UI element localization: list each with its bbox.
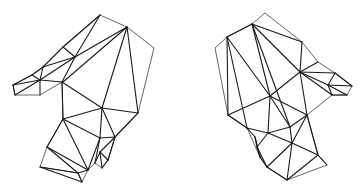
mesh-edge bbox=[300, 72, 332, 95]
mesh-edge bbox=[100, 108, 102, 138]
mesh-edge bbox=[32, 75, 40, 80]
mesh-edge bbox=[63, 119, 88, 170]
hand-meshes-figure bbox=[0, 0, 363, 188]
left-hand-outline bbox=[13, 15, 154, 182]
mesh-edge bbox=[328, 85, 352, 86]
mesh-edge bbox=[102, 108, 115, 137]
mesh-edge bbox=[252, 24, 290, 127]
mesh-edge bbox=[268, 96, 270, 133]
mesh-edge bbox=[335, 73, 352, 86]
mesh-edge bbox=[227, 37, 228, 115]
mesh-edge bbox=[268, 127, 290, 133]
mesh-edge bbox=[267, 143, 292, 167]
mesh-edge bbox=[40, 167, 82, 182]
left-hand-mesh bbox=[13, 15, 154, 182]
mesh-edge bbox=[63, 108, 102, 119]
mesh-edge bbox=[300, 42, 302, 72]
right-hand-mesh bbox=[215, 13, 352, 180]
mesh-edge bbox=[63, 47, 75, 57]
mesh-edge bbox=[300, 72, 307, 115]
mesh-edge bbox=[287, 143, 292, 180]
mesh-edge bbox=[300, 62, 318, 72]
mesh-edge bbox=[47, 119, 63, 147]
mesh-edge bbox=[300, 72, 335, 73]
mesh-edge bbox=[40, 80, 62, 82]
mesh-edge bbox=[62, 82, 102, 108]
mesh-edge bbox=[228, 96, 270, 115]
mesh-edge bbox=[307, 115, 318, 155]
mesh-edge bbox=[290, 127, 292, 143]
mesh-edge bbox=[318, 155, 327, 165]
mesh-edge bbox=[63, 119, 100, 138]
right-hand-outline bbox=[215, 13, 352, 180]
mesh-edge bbox=[300, 72, 328, 85]
mesh-edge bbox=[227, 24, 252, 37]
mesh-edge bbox=[102, 160, 108, 168]
mesh-edge bbox=[115, 113, 138, 137]
mesh-edge bbox=[267, 167, 287, 180]
mesh-edge bbox=[328, 73, 335, 85]
mesh-edge bbox=[260, 157, 267, 167]
mesh-edge bbox=[252, 24, 270, 96]
mesh-edge bbox=[252, 24, 300, 72]
mesh-edge bbox=[292, 115, 307, 143]
mesh-edge bbox=[75, 15, 100, 57]
mesh-edge bbox=[13, 85, 15, 95]
mesh-edge bbox=[252, 24, 302, 42]
mesh-edge bbox=[62, 82, 63, 119]
mesh-edge bbox=[63, 15, 100, 47]
mesh-edge bbox=[287, 155, 318, 180]
mesh-edge bbox=[100, 137, 115, 138]
mesh-edge bbox=[292, 143, 318, 155]
mesh-edge bbox=[257, 133, 268, 147]
mesh-edge bbox=[127, 27, 138, 113]
mesh-edge bbox=[290, 115, 307, 127]
mesh-edge bbox=[102, 108, 138, 113]
mesh-edge bbox=[268, 133, 292, 143]
